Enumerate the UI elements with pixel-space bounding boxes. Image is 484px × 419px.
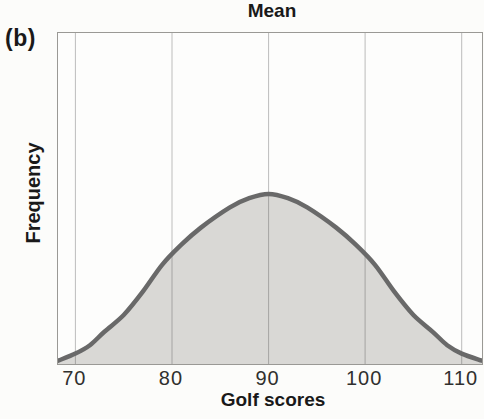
shaded-area [58, 194, 482, 364]
mean-annotation: Mean [248, 0, 297, 22]
x-tick-label-80: 80 [159, 368, 183, 388]
panel-label: (b) [5, 25, 36, 52]
x-tick-label-100: 100 [346, 368, 382, 388]
y-axis-label: Frequency [22, 142, 45, 243]
x-tick-label-70: 70 [62, 368, 86, 388]
plot-area [57, 32, 483, 365]
x-tick-label-110: 110 [443, 368, 478, 388]
x-tick-label-90: 90 [255, 368, 279, 388]
bell-curve-figure: (b) Mean Frequency 708090100110 Golf sco… [0, 0, 484, 419]
x-axis-label: Golf scores [221, 389, 326, 411]
bell-curve-svg [58, 33, 482, 364]
